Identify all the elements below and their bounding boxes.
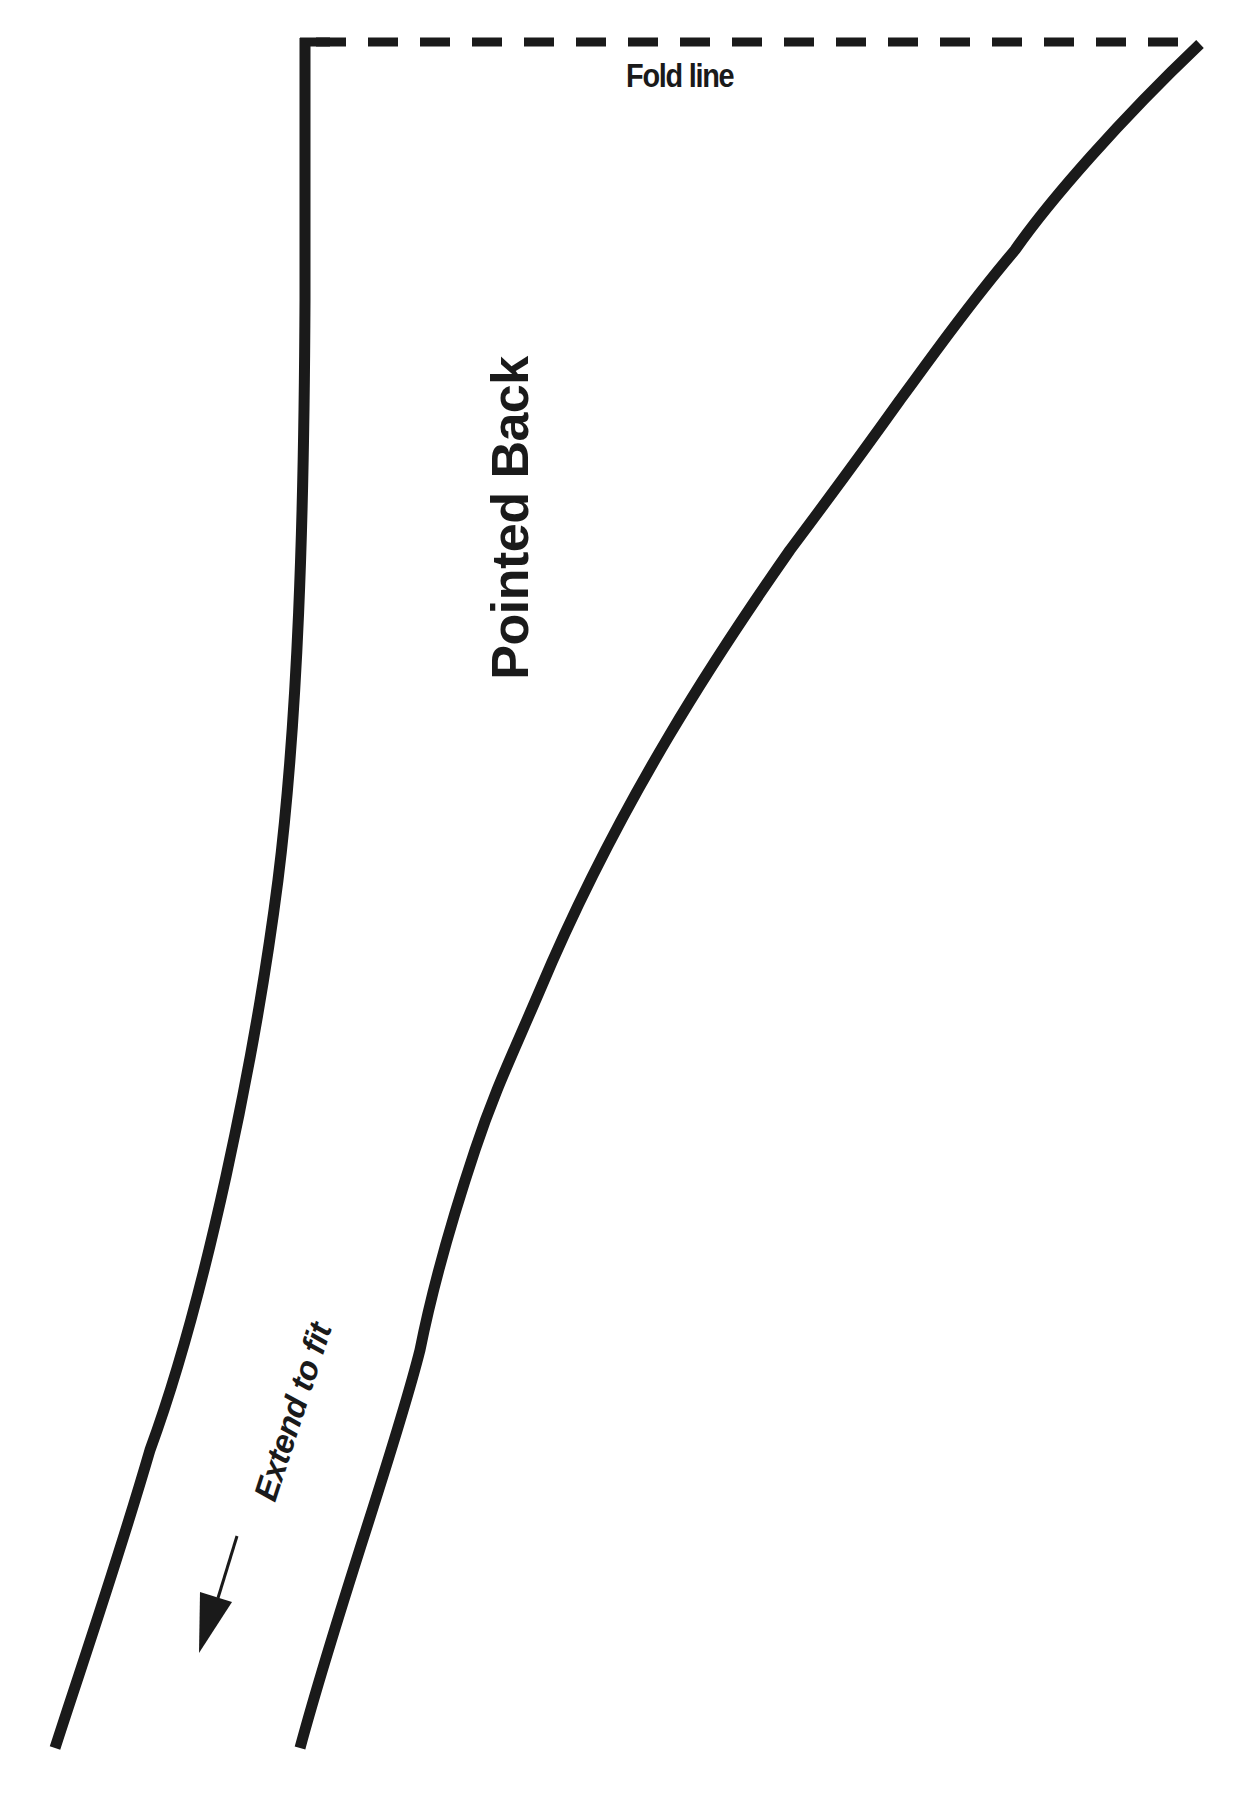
fold-line-label: Fold line (626, 56, 733, 95)
right-edge-line (300, 44, 1200, 1748)
down-left-arrow-icon (199, 1536, 237, 1653)
pattern-outline (0, 0, 1244, 1794)
pattern-title: Pointed Back (480, 356, 540, 679)
